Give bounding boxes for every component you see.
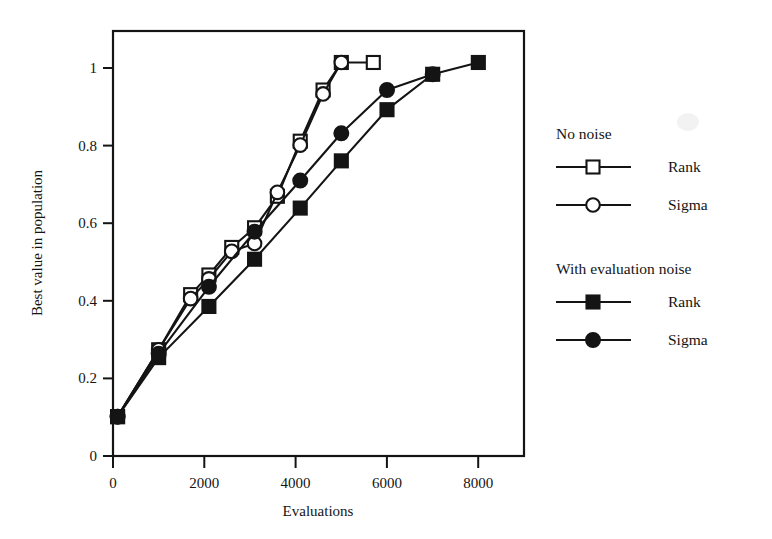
legend-item-no-noise-sigma[interactable]: Sigma [556,196,708,213]
series-1-point-7 [293,138,307,152]
series-2-point-8 [472,56,486,69]
series-2-point-6 [380,103,394,117]
x-tick-label-4: 8000 [463,475,493,491]
legend-marker-open-square-icon [587,161,600,174]
legend-marker-open-circle-icon [586,198,600,212]
legend-group-heading-1: With evaluation noise [556,260,692,277]
legend-group-heading-0: No noise [556,125,612,142]
series-2-point-2 [202,300,216,314]
series-0-point-10 [367,56,380,69]
x-tick-label-0: 0 [109,475,117,491]
legend-label: Sigma [668,331,708,348]
legend-label: Rank [668,158,701,175]
legend-marker-filled-square-icon [586,295,600,309]
legend-marker-filled-circle-icon [586,333,600,347]
series-layer [110,56,485,424]
legend-label: Rank [668,293,701,310]
series-1-point-9 [335,56,349,70]
y-axis-title: Best value in population [29,169,45,316]
chart-svg: 0 0.2 0.4 0.6 0.8 1 0 2000 4000 6000 800… [0,0,772,539]
x-axis-title: Evaluations [283,503,354,519]
series-line-2 [118,62,479,416]
y-tick-label-3: 0.6 [78,215,97,231]
series-1-point-8 [316,87,330,101]
legend-label: Sigma [668,196,708,213]
legend-item-with-evaluation-noise-rank[interactable]: Rank [556,293,701,310]
chart-legend: No noiseRankSigmaWith evaluation noiseRa… [556,125,708,348]
series-1-point-6 [271,186,285,200]
legend-item-with-evaluation-noise-sigma[interactable]: Sigma [556,331,708,348]
series-2-point-3 [248,252,261,265]
legend-item-no-noise-rank[interactable]: Rank [556,158,701,175]
y-tick-label-4: 0.8 [78,138,97,154]
y-axis-tick-labels: 0 0.2 0.4 0.6 0.8 1 [78,60,97,464]
x-axis-tick-labels: 0 2000 4000 6000 8000 [109,475,493,491]
series-3-point-0 [110,409,124,423]
y-axis-ticks [103,68,113,456]
x-tick-label-2: 4000 [281,475,311,491]
series-3-point-4 [293,173,307,187]
series-2-point-5 [335,154,349,168]
y-tick-label-0: 0 [90,448,98,464]
y-tick-label-2: 0.4 [78,293,97,309]
series-2 [111,56,485,424]
series-3-point-7 [425,67,439,81]
series-3-point-2 [202,280,216,294]
series-1 [111,56,348,424]
chart-figure: 0 0.2 0.4 0.6 0.8 1 0 2000 4000 6000 800… [0,0,772,539]
series-line-3 [118,74,433,416]
series-3-point-6 [380,83,394,97]
series-3 [110,67,439,424]
x-tick-label-1: 2000 [189,475,219,491]
series-2-point-4 [293,201,307,215]
x-tick-label-3: 6000 [372,475,402,491]
series-1-point-4 [225,245,239,259]
y-tick-label-5: 1 [90,60,98,76]
scan-artifact [677,113,699,131]
series-3-point-1 [151,346,165,360]
x-axis-ticks [113,456,478,468]
series-3-point-3 [247,224,261,238]
y-tick-label-1: 0.2 [78,370,97,386]
series-3-point-5 [334,126,348,140]
